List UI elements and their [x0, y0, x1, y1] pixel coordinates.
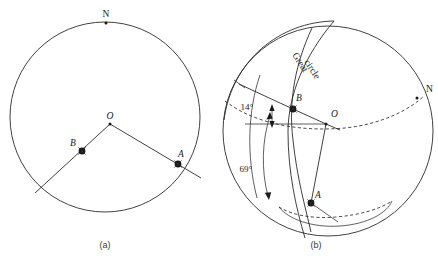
panel-a-label-a: A — [177, 149, 184, 159]
panel-b-point-a-marker — [307, 199, 314, 206]
panel-a-caption: (a) — [100, 240, 111, 250]
panel-b-label-b: B — [296, 93, 302, 103]
panel-b-point-b-marker — [289, 105, 296, 112]
panel-b-point-o-marker — [325, 123, 328, 126]
figure-root: N O B A (a) — [0, 0, 438, 261]
panel-a-point-n-marker — [105, 22, 108, 25]
figure-svg: N O B A (a) — [0, 0, 438, 261]
panel-a-label-n: N — [103, 9, 110, 19]
panel-b-tick-upper-left — [234, 80, 245, 88]
panel-a-point-b-marker — [78, 147, 85, 154]
panel-a-point-o-marker — [109, 123, 112, 126]
panel-b-point-n-marker — [416, 97, 419, 100]
panel-a: N O B A (a) — [10, 9, 201, 250]
panel-a-radius-oa — [110, 124, 201, 178]
panel-b-sphere-outline — [223, 26, 433, 236]
panel-b-caption: (b) — [311, 240, 322, 250]
panel-a-radius-ob — [35, 124, 110, 193]
panel-b-radius-ob — [293, 109, 326, 124]
panel-b-label-angle-69: 69° — [239, 164, 252, 174]
panel-a-label-o: O — [107, 111, 114, 121]
panel-a-label-b: B — [70, 138, 76, 148]
panel-a-outline-circle — [10, 22, 200, 212]
panel-a-point-a-marker — [174, 160, 181, 167]
panel-b-label-n: N — [426, 84, 433, 94]
panel-b-label-a: A — [314, 190, 321, 200]
panel-b-label-angle-14: 14° — [240, 102, 253, 112]
panel-b: N O B A 14° 69° Great circle (b) — [223, 21, 433, 250]
panel-b-chord-a-rim — [311, 203, 338, 222]
panel-b-label-o: O — [331, 109, 338, 119]
